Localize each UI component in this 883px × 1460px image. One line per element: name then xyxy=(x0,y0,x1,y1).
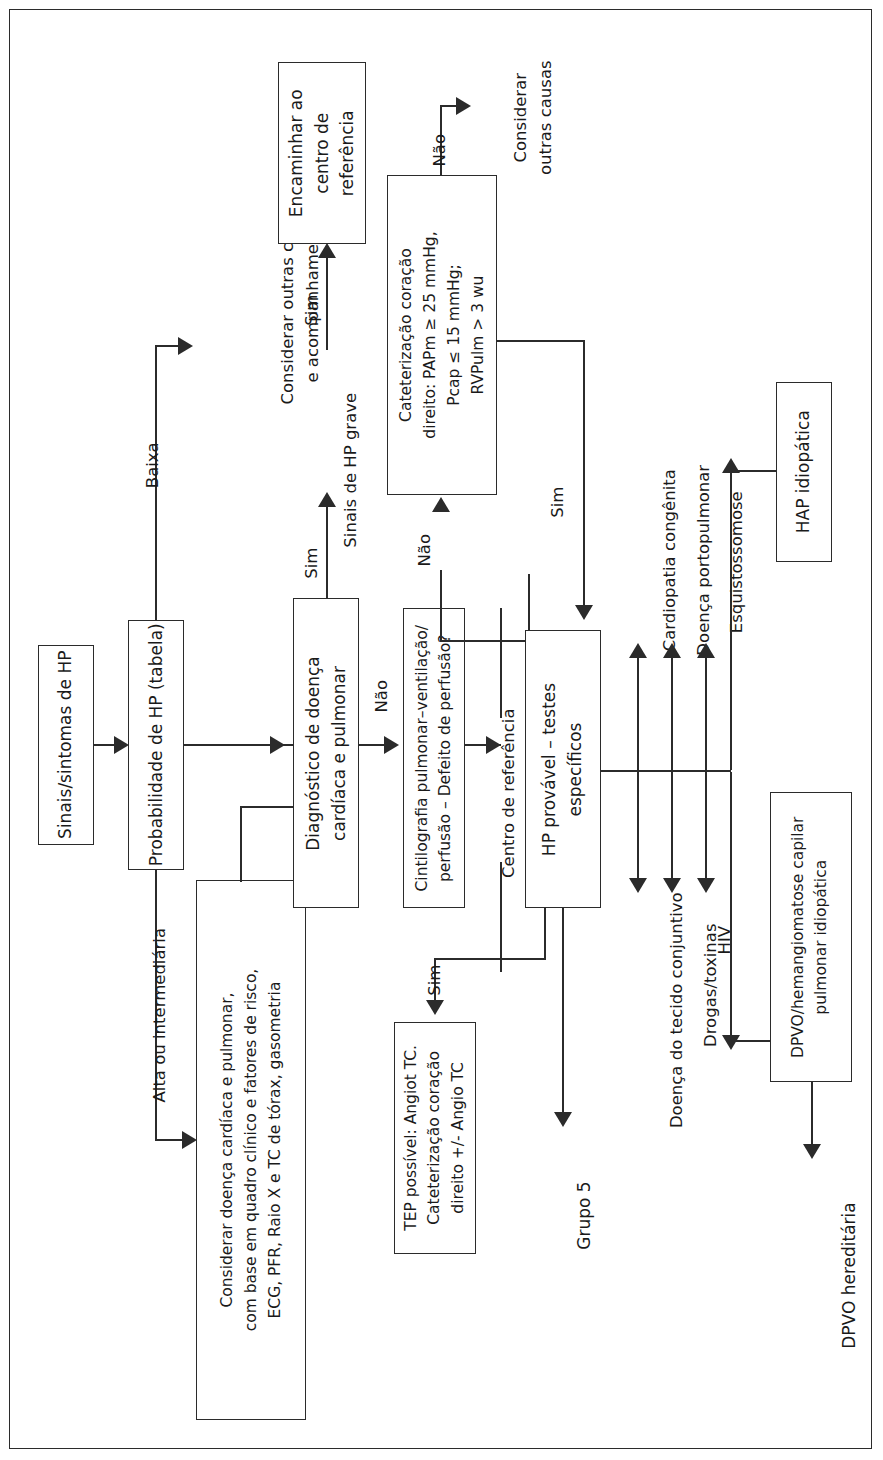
label-hiv: HIV xyxy=(715,870,735,1010)
edge-group5-line xyxy=(562,908,564,1118)
arrowhead-diagnosis xyxy=(270,736,285,754)
arrowhead-test-lower-1 xyxy=(629,878,647,893)
edge-scinti-yes-horizontal xyxy=(434,958,546,960)
label-dpvo-hereditaria: DPVO hereditária xyxy=(839,1156,860,1396)
node-consider-cardiac-text: Considerar doença cardíaca e pulmonar, c… xyxy=(215,969,287,1332)
edge-bus-to-hap-vertical xyxy=(730,470,732,770)
arrowhead-test-upper-3 xyxy=(697,643,715,658)
label-sinais-hp-grave: Sinais de HP grave xyxy=(341,370,361,570)
edge-label-sim-tep: Sim xyxy=(425,940,445,1020)
arrowhead-center-ref xyxy=(486,736,501,754)
node-refer-center-box[interactable]: Encaminhar ao centro de referência xyxy=(278,62,366,244)
arrowhead-refer-center xyxy=(318,243,336,258)
edge-label-nao-other-causes: Não xyxy=(430,110,450,190)
node-signs-symptoms-text: Sinais/sintomas de HP xyxy=(55,651,76,839)
node-probability-box[interactable]: Probabilidade de HP (tabela) xyxy=(128,620,184,870)
edge-dpvo-hereditary-line xyxy=(811,1082,813,1150)
edge-label-baixa: Baixa xyxy=(143,420,163,510)
node-tep-text: TEP possível: Angiot TC. Cateterização c… xyxy=(400,1045,470,1231)
node-dpvo-capilar-text: DPVO/hemangiomatose capilar pulmonar idi… xyxy=(788,816,835,1057)
edge-catheter-yes-horizontal xyxy=(497,340,585,342)
arrowhead-low xyxy=(178,337,193,355)
arrowhead-group5 xyxy=(554,1112,572,1127)
edge-bus-to-dpvo-horizontal xyxy=(730,1040,770,1042)
arrowhead-probability xyxy=(114,736,129,754)
node-diagnosis-box[interactable]: Diagnóstico de doença cardíaca e pulmona… xyxy=(293,598,359,908)
node-signs-symptoms-box[interactable]: Sinais/sintomas de HP xyxy=(38,645,94,845)
node-diagnosis-text: Diagnóstico de doença cardíaca e pulmona… xyxy=(301,656,352,850)
edge-consider-up xyxy=(240,806,242,882)
node-hp-probable-text: HP provável – testes específicos xyxy=(538,682,589,855)
edge-test-lower-1 xyxy=(637,772,639,884)
edge-label-sim-severe: Sim xyxy=(302,523,322,603)
arrowhead-dpvo xyxy=(722,1035,740,1050)
node-tep-box[interactable]: TEP possível: Angiot TC. Cateterização c… xyxy=(394,1022,476,1254)
edge-no-to-catheter-horizontal xyxy=(440,640,530,642)
label-centro-de-referencia: Centro de referência xyxy=(499,693,519,893)
edge-diagnosis-yes xyxy=(326,505,328,599)
edge-label-alta-intermediaria: Alta ou intermediária xyxy=(150,915,170,1115)
edge-consider-right xyxy=(240,806,300,808)
arrowhead-dpvo-hereditary xyxy=(803,1144,821,1159)
arrowhead-no-scinti xyxy=(384,736,399,754)
node-hp-probable-box[interactable]: HP provável – testes específicos xyxy=(525,630,601,908)
arrowhead-test-upper-2 xyxy=(663,643,681,658)
flowchart-page: Sinais/sintomas de HP Probabilidade de H… xyxy=(0,0,883,1460)
node-hap-idiopatica-box[interactable]: HAP idiopática xyxy=(776,382,832,562)
arrowhead-test-lower-2 xyxy=(663,878,681,893)
node-refer-center-text: Encaminhar ao centro de referência xyxy=(284,89,361,217)
edge-test-lower-2 xyxy=(671,772,673,884)
diagram-layer: Sinais/sintomas de HP Probabilidade de H… xyxy=(0,0,883,1460)
edge-bus-to-hap-horizontal xyxy=(730,470,776,472)
node-scintigraphy-box[interactable]: Cintilografia pulmonar–ventilação/ perfu… xyxy=(403,608,465,908)
node-catheterization-text: Cateterização coração direito: PAPm ≥ 25… xyxy=(394,231,490,438)
arrowhead-test-lower-3 xyxy=(697,878,715,893)
label-considerar-outras-causas: Considerar outras causas xyxy=(509,28,559,208)
label-doenca-tecido-conjuntivo: Doença do tecido conjuntivo xyxy=(667,870,687,1150)
edge-no-to-catheter-vertical xyxy=(440,570,442,642)
edge-bus-to-dpvo-vertical xyxy=(730,772,732,1042)
node-scintigraphy-text: Cintilografia pulmonar–ventilação/ perfu… xyxy=(411,625,458,891)
edge-label-nao-catheter: Não xyxy=(415,510,435,590)
edge-label-sim-hp-probable: Sim xyxy=(548,462,568,542)
arrowhead-yes-severe xyxy=(318,492,336,507)
edge-label-sim-refer: Sim xyxy=(302,270,322,350)
edge-catheter-yes-vertical xyxy=(583,340,585,610)
label-cardiopatia-congenita: Cardiopatia congênita xyxy=(660,445,680,675)
edge-test-upper-3 xyxy=(705,655,707,770)
arrowhead-test-upper-1 xyxy=(629,643,647,658)
node-dpvo-capilar-box[interactable]: DPVO/hemangiomatose capilar pulmonar idi… xyxy=(770,792,852,1082)
arrowhead-hp-probable xyxy=(575,605,593,620)
arrowhead-high xyxy=(182,1131,197,1149)
arrowhead-other-causes xyxy=(456,97,471,115)
edge-test-upper-2 xyxy=(671,655,673,770)
node-probability-text: Probabilidade de HP (tabela) xyxy=(145,624,166,867)
label-doenca-portopulmonar: Doença portopulmonar xyxy=(694,445,714,675)
edge-to-refer xyxy=(326,255,328,350)
edge-label-nao-scinti: Não xyxy=(372,661,392,731)
node-catheterization-box[interactable]: Cateterização coração direito: PAPm ≥ 25… xyxy=(387,175,497,495)
edge-test-lower-3 xyxy=(705,772,707,884)
node-hap-idiopatica-text: HAP idiopática xyxy=(793,410,814,533)
edge-scinti-yes-vertical xyxy=(544,908,546,960)
label-grupo-5: Grupo 5 xyxy=(574,1156,595,1276)
edge-test-upper-1 xyxy=(637,655,639,770)
node-consider-cardiac-box[interactable]: Considerar doença cardíaca e pulmonar, c… xyxy=(196,880,306,1420)
bus-specific-tests xyxy=(601,770,731,772)
